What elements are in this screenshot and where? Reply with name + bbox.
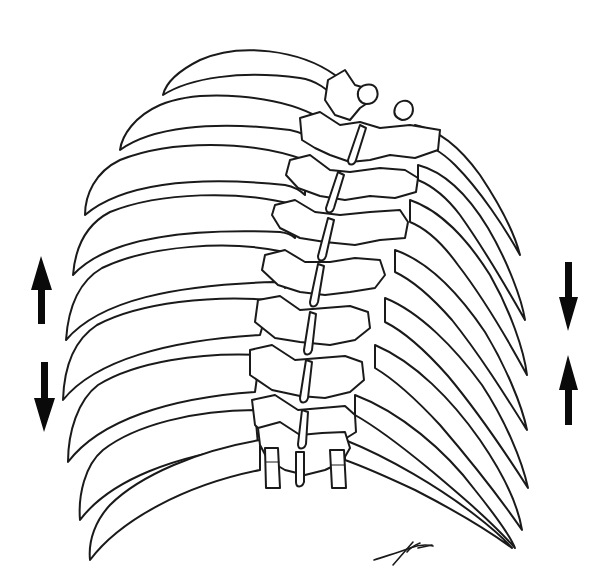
pedicle-right — [330, 450, 346, 488]
spinous-process-8 — [296, 452, 304, 487]
arrow-down-icon — [34, 362, 55, 432]
pedicle-left — [265, 448, 280, 488]
arrow-up-icon — [559, 355, 578, 425]
right-arrows — [559, 262, 578, 425]
vertebra-t2 — [300, 112, 440, 162]
transverse-tubercle-1 — [358, 85, 378, 104]
ribcage-illustration — [0, 0, 605, 588]
arrow-up-icon — [31, 256, 52, 324]
left-rib-2 — [120, 96, 320, 150]
artist-signature — [374, 542, 433, 565]
left-rib-1 — [163, 50, 335, 100]
transverse-tubercle-2 — [394, 101, 412, 120]
left-arrows — [31, 256, 55, 432]
vertebra-t4 — [272, 200, 408, 245]
arrow-down-icon — [559, 262, 578, 331]
